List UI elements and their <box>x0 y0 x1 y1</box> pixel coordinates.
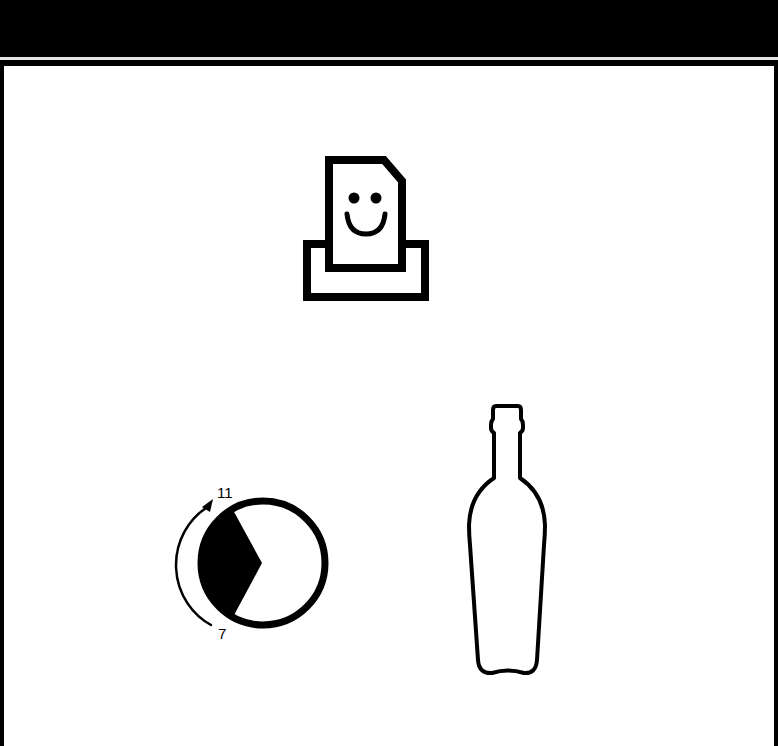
document-page-icon <box>329 160 402 268</box>
timer-dial-icon[interactable]: 11 7 <box>176 484 325 642</box>
icon-layer: 11 7 <box>0 0 778 746</box>
bottle-icon[interactable] <box>469 406 545 673</box>
dial-end-label: 11 <box>217 484 233 501</box>
bottle-outline-icon <box>469 406 545 673</box>
dial-dark-sector <box>199 510 262 617</box>
happy-document-tray-icon[interactable] <box>307 160 425 297</box>
smiley-left-eye-icon <box>349 193 360 204</box>
dial-start-label: 7 <box>218 625 226 642</box>
smiley-right-eye-icon <box>371 193 382 204</box>
